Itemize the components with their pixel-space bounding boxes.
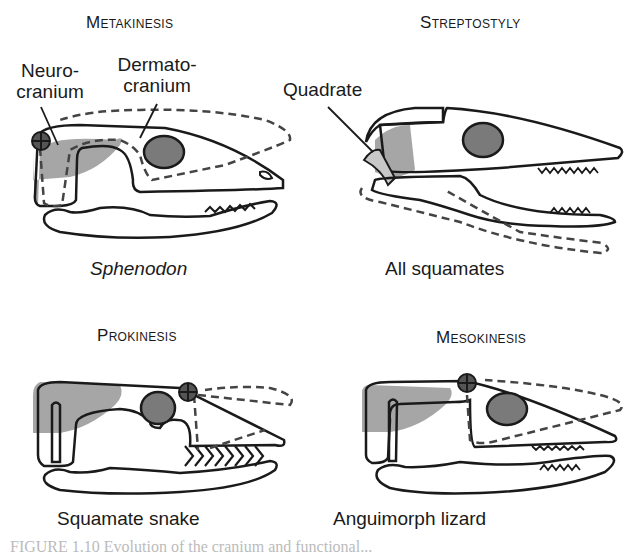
figure-caption: FIGURE 1.10 Evolution of the cranium and… [10, 538, 372, 556]
skull-metakinesis [32, 104, 290, 238]
skull-mesokinesis [362, 374, 622, 493]
skull-streptostyly [328, 107, 622, 253]
skull-prokinesis [33, 382, 292, 494]
